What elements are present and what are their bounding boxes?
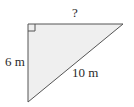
- triangle-shape: [28, 24, 123, 102]
- hypotenuse-label: 10 m: [72, 65, 98, 80]
- right-triangle-diagram: ? 6 m 10 m: [0, 0, 134, 107]
- left-side-label: 6 m: [5, 54, 25, 69]
- top-side-label: ?: [72, 5, 78, 20]
